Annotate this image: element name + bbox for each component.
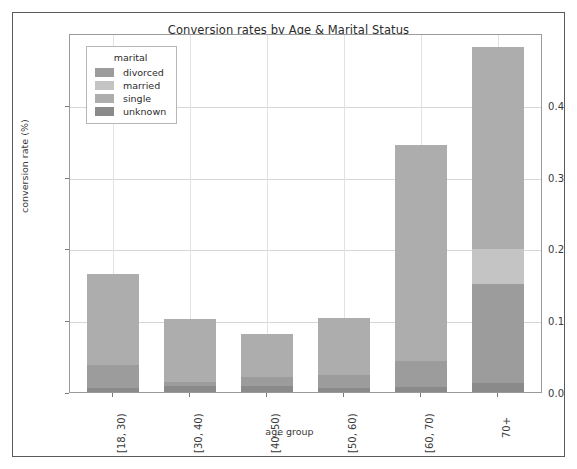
x-tick-mark — [420, 393, 421, 397]
bar-segment-single[interactable] — [241, 334, 293, 377]
legend-swatch-married — [95, 81, 114, 90]
bar-group-30-40[interactable] — [164, 319, 216, 392]
x-tick-mark — [343, 393, 344, 397]
legend-title: marital — [95, 52, 166, 63]
bar-segment-unknown[interactable] — [472, 383, 524, 392]
y-tick-mark — [65, 393, 69, 394]
gridline-y — [70, 250, 541, 251]
bar-segment-divorced[interactable] — [472, 284, 524, 384]
legend-swatch-divorced — [95, 68, 114, 77]
bar-segment-divorced[interactable] — [164, 382, 216, 386]
bar-segment-unknown[interactable] — [164, 386, 216, 392]
legend-label-divorced: divorced — [123, 67, 164, 78]
bar-segment-divorced[interactable] — [318, 375, 370, 388]
bar-segment-unknown[interactable] — [395, 387, 447, 392]
bar-segment-single[interactable] — [164, 319, 216, 382]
x-tick-mark — [266, 393, 267, 397]
bar-group-18-30[interactable] — [87, 274, 139, 392]
bar-segment-unknown[interactable] — [87, 388, 139, 392]
bar-group-70-plus[interactable] — [472, 47, 524, 392]
bar-group-40-50[interactable] — [241, 334, 293, 392]
bar-group-60-70[interactable] — [395, 145, 447, 393]
bar-group-50-60[interactable] — [318, 318, 370, 392]
bar-segment-married[interactable] — [472, 249, 524, 284]
legend-item-divorced[interactable]: divorced — [95, 66, 166, 79]
bar-segment-single[interactable] — [472, 47, 524, 249]
legend-item-married[interactable]: married — [95, 79, 166, 92]
bar-segment-divorced[interactable] — [241, 377, 293, 386]
gridline-y — [70, 322, 541, 323]
legend: marital divorced married single unknown — [86, 46, 177, 124]
x-tick-mark — [189, 393, 190, 397]
x-axis-label: age group — [13, 426, 566, 437]
gridline-y — [70, 179, 541, 180]
bar-segment-unknown[interactable] — [318, 388, 370, 392]
y-axis-label: conversion rate (%) — [19, 119, 30, 213]
legend-item-unknown[interactable]: unknown — [95, 105, 166, 118]
legend-label-single: single — [123, 93, 151, 104]
x-tick-mark — [497, 393, 498, 397]
bar-segment-single[interactable] — [395, 145, 447, 361]
bar-segment-divorced[interactable] — [87, 365, 139, 389]
bar-segment-unknown[interactable] — [241, 386, 293, 393]
bar-segment-single[interactable] — [87, 274, 139, 365]
bar-segment-divorced[interactable] — [395, 361, 447, 388]
legend-label-married: married — [123, 80, 160, 91]
legend-swatch-single — [95, 94, 114, 103]
legend-item-single[interactable]: single — [95, 92, 166, 105]
figure-frame: Conversion rates by Age & Marital Status… — [12, 12, 565, 457]
plot-area: marital divorced married single unknown — [69, 34, 542, 393]
legend-label-unknown: unknown — [123, 106, 166, 117]
legend-swatch-unknown — [95, 107, 114, 116]
x-tick-mark — [112, 393, 113, 397]
bar-segment-single[interactable] — [318, 318, 370, 375]
